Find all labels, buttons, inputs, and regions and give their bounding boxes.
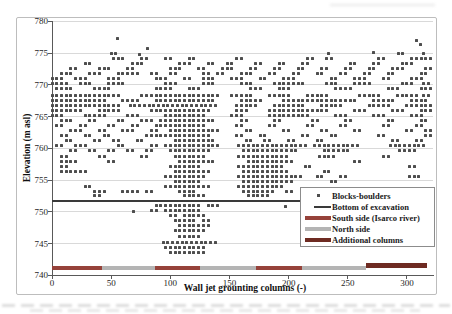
caption-blur-line <box>2 304 450 307</box>
scatter-point <box>107 149 110 152</box>
scatter-point <box>377 114 380 117</box>
scatter-point <box>211 160 214 163</box>
scatter-point <box>88 62 91 65</box>
scatter-point <box>103 114 106 117</box>
scatter-point <box>178 160 181 163</box>
scatter-point <box>202 134 205 137</box>
scatter-point <box>174 67 177 70</box>
scatter-point <box>259 134 262 137</box>
scatter-point <box>292 82 295 85</box>
scatter-point <box>330 99 333 102</box>
scatter-point <box>301 62 304 65</box>
scatter-point <box>164 119 167 122</box>
scatter-point <box>346 149 349 152</box>
scatter-point <box>216 204 219 207</box>
scatter-point <box>183 99 186 102</box>
legend-label: North side <box>332 224 370 234</box>
scatter-point <box>55 114 58 117</box>
scatter-point <box>207 94 210 97</box>
scatter-point <box>405 94 408 97</box>
scatter-point <box>405 129 408 132</box>
scatter-point <box>271 175 274 178</box>
scatter-point <box>344 99 347 102</box>
scatter-point <box>422 94 425 97</box>
scatter-point <box>93 139 96 142</box>
scatter-point <box>316 72 319 75</box>
scatter-point <box>136 190 139 193</box>
scatter-point <box>275 165 278 168</box>
scatter-point <box>55 82 58 85</box>
scatter-point <box>391 99 394 102</box>
scatter-point <box>273 72 276 75</box>
scatter-point <box>235 77 238 80</box>
scatter-point <box>280 170 283 173</box>
scatter-point <box>247 144 250 147</box>
scatter-point <box>387 72 390 75</box>
scatter-point <box>51 99 54 102</box>
scatter-point <box>178 190 181 193</box>
scatter-point <box>282 104 285 107</box>
scatter-point <box>197 204 200 207</box>
scatter-point <box>60 160 63 163</box>
scatter-point <box>207 224 210 227</box>
scatter-point <box>65 155 68 158</box>
scatter-point <box>202 77 205 80</box>
scatter-point <box>155 94 158 97</box>
scatter-point <box>266 155 269 158</box>
scatter-point <box>162 104 165 107</box>
scatter-point <box>349 62 352 65</box>
scatter-point <box>285 180 288 183</box>
scatter-point <box>197 134 200 137</box>
scatter-point <box>138 53 141 56</box>
additional-columns-bar <box>366 263 428 268</box>
scatter-point <box>197 214 200 217</box>
scatter-point <box>316 119 319 122</box>
scatter-point <box>192 219 195 222</box>
scatter-point <box>88 104 91 107</box>
scatter-point <box>268 72 271 75</box>
scatter-point <box>145 57 148 60</box>
scatter-point <box>427 94 430 97</box>
legend-label: Additional columns <box>332 235 403 245</box>
scatter-point <box>266 185 269 188</box>
scatter-point <box>183 180 186 183</box>
scatter-point <box>79 124 82 127</box>
scatter-point <box>301 99 304 102</box>
scatter-point <box>195 241 198 244</box>
scatter-point <box>377 62 380 65</box>
scatter-point <box>306 99 309 102</box>
scatter-point <box>398 149 401 152</box>
scatter-point <box>275 160 278 163</box>
scatter-point <box>117 139 120 142</box>
scatter-point <box>285 170 288 173</box>
scatter-point <box>316 109 319 112</box>
scatter-point <box>69 104 72 107</box>
scatter-point <box>103 190 106 193</box>
scatter-point <box>65 109 68 112</box>
scatter-point <box>237 155 240 158</box>
scatter-point <box>323 155 326 158</box>
scatter-point <box>174 149 177 152</box>
scatter-point <box>413 175 416 178</box>
scatter-point <box>155 109 158 112</box>
scatter-point <box>88 119 91 122</box>
scatter-point <box>420 57 423 60</box>
scatter-point <box>202 82 205 85</box>
y-tick-label: 745 <box>20 239 48 249</box>
scatter-point <box>353 62 356 65</box>
scatter-point <box>278 87 281 90</box>
scatter-point <box>146 47 149 50</box>
scatter-point <box>424 109 427 112</box>
scatter-point <box>405 62 408 65</box>
scatter-point <box>202 139 205 142</box>
scatter-point <box>415 57 418 60</box>
scatter-point <box>112 160 115 163</box>
scatter-point <box>79 99 82 102</box>
scatter-point <box>273 104 276 107</box>
scatter-point <box>403 144 406 147</box>
scatter-point <box>131 99 134 102</box>
plot-area: 7407457507557607657707757800501001502002… <box>0 0 452 314</box>
scatter-point <box>240 82 243 85</box>
scatter-point <box>155 144 158 147</box>
scatter-point <box>174 72 177 75</box>
